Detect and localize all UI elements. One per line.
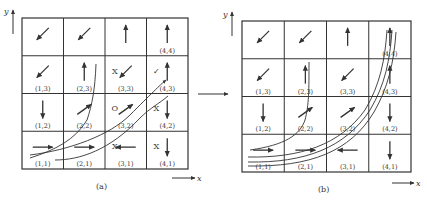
grid-cell: (3,3) [340,69,356,96]
grid-cell [257,31,269,43]
cell-label: (1,3) [255,88,271,96]
grid-cell: (4,2) [382,103,398,133]
cell-label: (1,2) [35,122,51,130]
cell-label: (2,1) [298,163,314,171]
x-axis-label-b: x [416,179,421,188]
grid-cell: (1,1) [253,150,273,171]
cell-label: (1,2) [255,125,271,133]
cell-label: (3,3) [340,88,356,96]
grid-cell: (1,3) [35,66,51,93]
policy-arrow-icon [299,31,311,43]
policy-arrow-icon [257,69,269,81]
policy-arrow-icon [298,107,312,117]
grid-cell: (4,1)X [153,138,175,168]
grid-cell: (4,4) [160,25,176,55]
grid-cell: (2,3) [77,63,93,93]
grid-cell: (3,1) [338,150,358,171]
cell-label: (1,1) [255,163,271,171]
grid-cell [299,31,311,43]
cell-label: (3,3) [118,85,134,93]
trajectory-curves-b [248,30,396,166]
grid-cell: (4,1) [382,141,398,171]
cell-label: (1,3) [35,85,51,93]
cell-label: (4,3) [160,85,176,93]
cell-label: (2,3) [298,88,314,96]
grid-cell: (4,3)✓ [153,63,176,93]
cell-label: (4,4) [160,47,176,55]
grid-cell: (3,1)X [112,142,136,168]
cell-mark: X [112,142,118,151]
policy-arrow-icon [78,28,90,40]
caption-b: (b) [318,185,329,194]
grid-cell: (1,2) [35,100,51,130]
trajectory-curves-a [30,64,168,160]
cell-label: (2,3) [77,85,93,93]
y-axis-label-a: y [3,7,9,16]
diagram-canvas: (4,4)(1,3)(2,3)(3,3)X(4,3)✓(1,2)(2,2)(3,… [0,0,427,200]
cell-label: (4,2) [382,125,398,133]
grid-cell: (1,3) [255,69,271,96]
x-axis-label-a: x [197,174,202,183]
policy-arrow-icon [120,66,132,78]
policy-arrow-icon [37,66,49,78]
cell-mark: O [111,104,118,113]
policy-arrow-icon [257,31,269,43]
grid-cell: (1,2) [255,103,271,133]
policy-arrow-icon [341,107,355,117]
policy-arrow-icon [342,69,354,81]
cell-label: (3,1) [118,160,134,168]
y-axis-label-b: y [222,10,228,19]
cell-label: (3,1) [340,163,356,171]
policy-arrow-icon [119,104,133,114]
grid-cell: (3,2)O [111,104,133,130]
grid-cell [78,28,90,40]
cell-label: (4,1) [160,160,176,168]
cell-label: (4,2) [160,122,176,130]
cell-label: (2,1) [77,160,93,168]
cell-mark: X [153,142,159,151]
caption-a: (a) [96,182,107,191]
cell-mark: X [112,67,118,76]
cell-label: (4,1) [382,163,398,171]
cell-label: (1,1) [35,160,51,168]
policy-arrow-icon [37,28,49,40]
cell-mark: ✓ [153,67,160,76]
grid-cell [37,28,49,40]
grid-cell: (2,3) [298,66,314,96]
grid-cell: (3,3)X [112,66,134,93]
